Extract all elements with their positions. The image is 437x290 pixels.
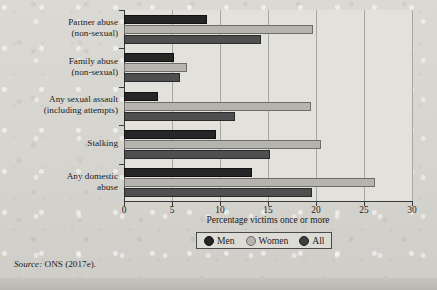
- bar-all-cat1: [124, 73, 180, 82]
- source-note: Source: ONS (2017e).: [14, 259, 96, 269]
- category-label-line: Stalking: [0, 138, 118, 149]
- category-label-line: Partner abuse: [0, 17, 118, 28]
- y-tick-mark-1: [119, 48, 124, 49]
- x-axis-title: Percentage victims once or more: [124, 215, 412, 225]
- category-label-1: Family abuse(non-sexual): [0, 56, 118, 78]
- x-tick-label-5: 5: [157, 205, 187, 215]
- bar-women-cat2: [124, 102, 311, 111]
- gridline-30: [412, 10, 413, 202]
- category-label-0: Partner abuse(non-sexual): [0, 17, 118, 39]
- x-tick-label-15: 15: [253, 205, 283, 215]
- legend-label-men: Men: [217, 235, 235, 246]
- bar-men-cat4: [124, 168, 252, 177]
- bar-men-cat0: [124, 15, 207, 24]
- x-tick-label-20: 20: [301, 205, 331, 215]
- legend-swatch-women-icon: [246, 236, 256, 246]
- category-label-line: (non-sexual): [0, 28, 118, 39]
- category-label-line: abuse: [0, 182, 118, 193]
- x-tick-label-0: 0: [109, 205, 139, 215]
- y-tick-mark-2: [119, 87, 124, 88]
- legend-label-women: Women: [259, 235, 289, 246]
- bar-women-cat0: [124, 25, 313, 34]
- legend-item-men: Men: [204, 235, 235, 246]
- bar-men-cat1: [124, 53, 174, 62]
- bar-all-cat4: [124, 188, 312, 197]
- x-tick-label-30: 30: [397, 205, 427, 215]
- y-tick-mark-4: [119, 164, 124, 165]
- gridline-25: [364, 10, 365, 202]
- bar-men-cat2: [124, 92, 158, 101]
- bar-all-cat0: [124, 35, 261, 44]
- gridline-20: [316, 10, 317, 202]
- legend-item-all: All: [299, 235, 324, 246]
- legend-label-all: All: [312, 235, 324, 246]
- category-label-line: (including attempts): [0, 105, 118, 116]
- category-label-4: Any domesticabuse: [0, 171, 118, 193]
- legend-swatch-all-icon: [299, 236, 309, 246]
- category-label-3: Stalking: [0, 138, 118, 149]
- bar-women-cat4: [124, 178, 375, 187]
- y-tick-mark-0: [119, 10, 124, 11]
- source-text: ONS (2017e).: [45, 259, 97, 269]
- bar-women-cat1: [124, 63, 187, 72]
- legend-item-women: Women: [246, 235, 289, 246]
- bar-all-cat2: [124, 112, 235, 121]
- category-label-line: Any sexual assault: [0, 94, 118, 105]
- bar-women-cat3: [124, 140, 321, 149]
- bar-men-cat3: [124, 130, 216, 139]
- category-label-line: Family abuse: [0, 56, 118, 67]
- category-label-line: Any domestic: [0, 171, 118, 182]
- bar-all-cat3: [124, 150, 270, 159]
- bar-chart-figure: Partner abuse(non-sexual)Family abuse(no…: [0, 0, 437, 290]
- legend-swatch-men-icon: [204, 236, 214, 246]
- source-label: Source:: [14, 259, 42, 269]
- x-tick-label-25: 25: [349, 205, 379, 215]
- chart-legend: MenWomenAll: [196, 232, 332, 249]
- y-tick-mark-3: [119, 125, 124, 126]
- category-label-line: (non-sexual): [0, 67, 118, 78]
- category-label-2: Any sexual assault(including attempts): [0, 94, 118, 116]
- x-tick-label-10: 10: [205, 205, 235, 215]
